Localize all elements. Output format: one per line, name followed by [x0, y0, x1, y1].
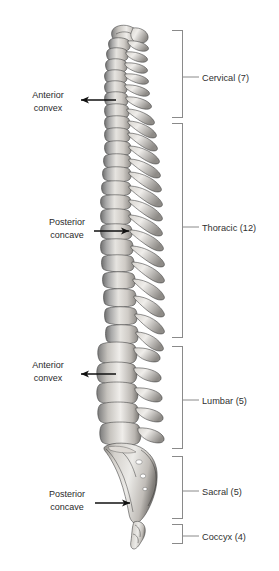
thoracolumbar-body-c — [105, 307, 138, 325]
annotation-line2-sacral: concave — [50, 502, 84, 512]
vertebral-column-figure: Cervical (7) Thoracic (12) Lumbar (5) Sa… — [0, 0, 279, 571]
region-label-coccyx: Coccyx (4) — [202, 532, 246, 542]
thoracolumbar-body-b — [104, 289, 137, 307]
annotation-line1-thoracic: Posterior — [49, 217, 85, 227]
thoracic-vertebra-t9 — [101, 209, 132, 225]
thoracic-vertebra-t8 — [101, 195, 132, 210]
annotation-line1-cervical: Anterior — [32, 90, 64, 100]
thoracic-vertebra-t12 — [102, 255, 135, 272]
region-label-cervical: Cervical (7) — [202, 73, 249, 83]
thoracolumbar-body-a — [103, 272, 136, 289]
thoracic-vertebra-t6 — [103, 167, 132, 182]
annotation-line1-sacral: Posterior — [49, 489, 85, 499]
lumbar-vertebra-l4 — [98, 402, 139, 425]
annotation-line2-lumbar: convex — [34, 373, 63, 383]
lumbar-vertebra-l3 — [97, 382, 138, 405]
lumbar-vertebra-l2 — [97, 362, 137, 385]
thoracic-vertebra-t11 — [101, 239, 134, 256]
region-label-lumbar: Lumbar (5) — [202, 396, 247, 406]
sacral-foramen-1 — [136, 460, 142, 464]
region-label-sacral: Sacral (5) — [202, 487, 242, 497]
lumbar-vertebra-l5 — [100, 422, 141, 446]
annotation-line1-lumbar: Anterior — [32, 360, 64, 370]
region-label-thoracic: Thoracic (12) — [202, 223, 256, 233]
sacral-foramen-2 — [140, 474, 146, 478]
thoracic-vertebra-t7 — [102, 181, 132, 196]
thoracolumbar-body-d — [106, 325, 139, 344]
lumbar-vertebra-l1 — [98, 342, 137, 365]
annotation-line2-thoracic: concave — [50, 230, 84, 240]
annotation-line2-cervical: convex — [34, 103, 63, 113]
lumbar-vertebrae-group — [97, 342, 164, 446]
sacral-foramen-3 — [143, 487, 147, 490]
thoracic-vertebra-t10 — [101, 224, 133, 240]
